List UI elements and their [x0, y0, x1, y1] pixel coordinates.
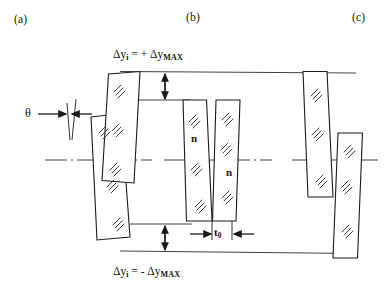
- panel-label-c: (c): [352, 11, 365, 23]
- sign-symbol: -: [141, 265, 145, 277]
- sign-symbol: +: [141, 48, 148, 60]
- bottom-reference-rule: [120, 251, 356, 254]
- subscript-i: i: [126, 270, 128, 279]
- plate-c-right: [333, 133, 363, 258]
- panel-label-b: (b): [186, 11, 200, 23]
- theta-label: θ: [25, 106, 31, 121]
- bottom-offset-equation: Δyi = - ΔyMAX: [113, 265, 180, 279]
- plate-b-right: [213, 100, 241, 221]
- n-label-right: n: [226, 166, 232, 178]
- thickness-label: t0: [214, 226, 221, 240]
- theta-ext-right: [72, 99, 76, 140]
- theta-ext-left: [67, 103, 70, 140]
- panel-c-plates: [303, 72, 363, 259]
- equals-symbol: =: [131, 265, 138, 277]
- subscript-max: MAX: [161, 270, 181, 279]
- subscript-i: i: [126, 53, 128, 62]
- equals-symbol: =: [131, 48, 138, 60]
- figure-canvas: [0, 0, 391, 298]
- top-offset-equation: Δyi = + ΔyMAX: [113, 48, 183, 62]
- theta-extension-lines: [67, 99, 76, 140]
- thickness-subscript: 0: [218, 231, 222, 240]
- n-label-left: n: [191, 132, 197, 144]
- panel-b-plates: [183, 100, 240, 221]
- delta-symbol: Δ: [147, 265, 154, 277]
- panel-label-a: (a): [14, 13, 27, 25]
- panel-a-plates: [91, 72, 140, 241]
- subscript-max: MAX: [163, 53, 183, 62]
